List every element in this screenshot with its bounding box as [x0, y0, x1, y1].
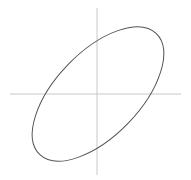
diagram-canvas [0, 0, 191, 180]
ellipse [9, 4, 186, 180]
